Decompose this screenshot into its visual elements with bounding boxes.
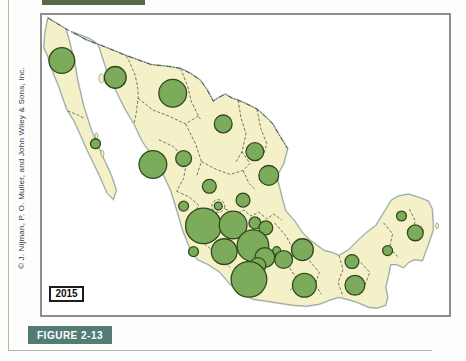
- population-circle-nayarit: [179, 201, 189, 211]
- mexico-population-map: [42, 15, 449, 315]
- copyright-credit: © J. Nijman, P. O. Muller, and John Wile…: [15, 18, 29, 318]
- gulf-island-2: [101, 150, 104, 157]
- gulf-island-1: [95, 133, 98, 139]
- population-circle-san-luis-potosi: [236, 193, 250, 207]
- population-circle-baja-california-sur: [91, 139, 101, 149]
- population-circle-chiapas: [345, 275, 365, 295]
- population-circle-michoacan: [211, 239, 237, 265]
- population-circle-jalisco: [186, 208, 222, 244]
- population-circle-yucatan: [397, 211, 407, 221]
- population-circle-guerrero: [231, 262, 267, 298]
- population-circle-coahuila: [214, 115, 232, 133]
- population-circle-colima: [189, 247, 199, 257]
- population-circle-chihuahua: [159, 79, 187, 107]
- year-label: 2015: [49, 286, 84, 302]
- population-circle-aguascalientes: [214, 202, 222, 210]
- population-circle-veracruz: [292, 239, 314, 261]
- population-circle-quintana-roo: [407, 225, 423, 241]
- figure-bottom-border: [8, 350, 432, 351]
- cozumel-island: [436, 223, 439, 229]
- population-circle-durango: [176, 151, 192, 167]
- population-circle-nuevo-leon: [246, 143, 264, 161]
- population-circle-sinaloa: [139, 151, 167, 179]
- population-circle-sonora: [104, 66, 126, 88]
- tiburon-island: [99, 74, 104, 83]
- figure-page: © J. Nijman, P. O. Muller, and John Wile…: [0, 0, 466, 361]
- population-circle-zacatecas: [202, 179, 216, 193]
- population-circle-puebla: [275, 251, 293, 269]
- population-circle-tabasco: [345, 255, 359, 269]
- figure-left-border: [8, 0, 9, 351]
- population-circle-baja-california: [49, 48, 75, 74]
- map-frame: 2015: [40, 13, 451, 317]
- cropped-photo-strip: [42, 0, 145, 5]
- population-circle-oaxaca: [293, 273, 317, 297]
- population-circle-campeche: [383, 246, 393, 256]
- baja-peninsula-land: [44, 18, 116, 199]
- population-circle-tamaulipas: [259, 165, 279, 185]
- figure-number-label: FIGURE 2-13: [28, 326, 112, 344]
